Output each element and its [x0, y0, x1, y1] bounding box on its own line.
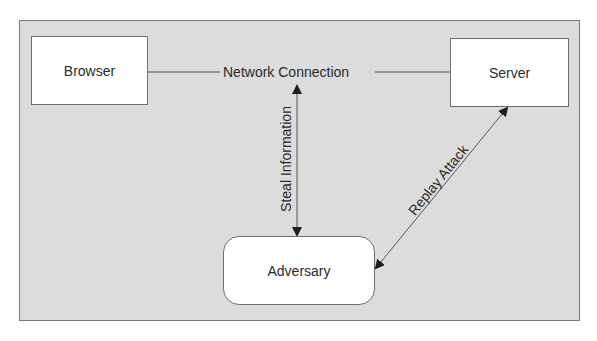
browser-node: Browser — [31, 36, 148, 105]
adversary-label: Adversary — [267, 263, 330, 279]
server-node: Server — [450, 38, 569, 107]
steal-information-label: Steal Information — [278, 99, 294, 219]
adversary-node: Adversary — [223, 236, 375, 305]
browser-label: Browser — [64, 63, 115, 79]
server-label: Server — [489, 65, 530, 81]
network-connection-label: Network Connection — [223, 64, 349, 80]
